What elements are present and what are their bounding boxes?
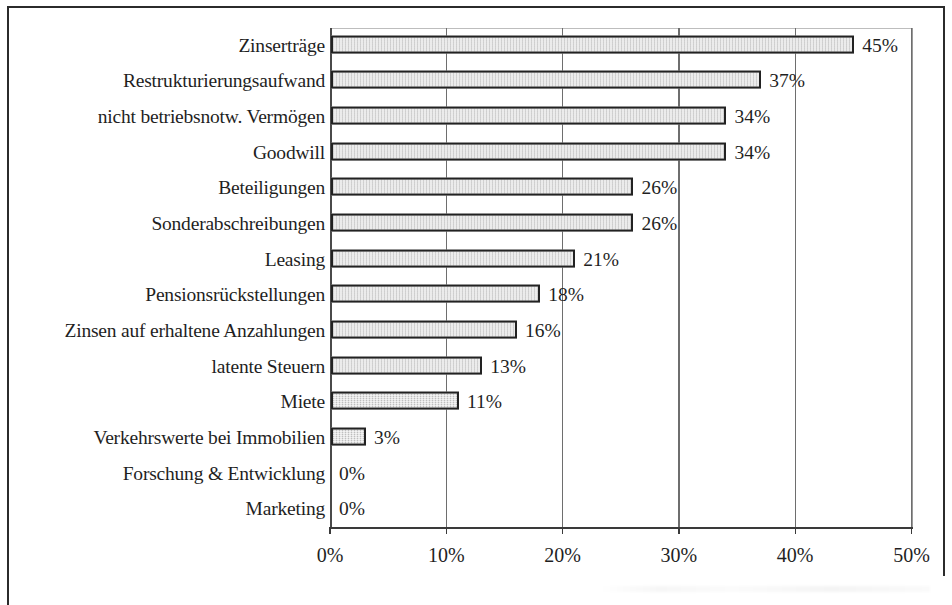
bar-row: Goodwill34% [0,135,952,171]
bar-row: Zinsen auf erhaltene Anzahlungen16% [0,313,952,349]
category-label: Restrukturierungsaufwand [123,72,325,92]
horizontal-bar-chart: Zinserträge45%Restrukturierungsaufwand37… [0,0,952,605]
bar-value-label: 18% [548,285,584,305]
bar-value-label: 26% [641,178,677,198]
bar-row: Miete11% [0,384,952,420]
category-label: Marketing [246,499,325,519]
bar-row: Forschung & Entwicklung0% [0,456,952,492]
category-label: Miete [281,392,325,412]
category-label: Zinserträge [238,36,325,56]
bar-row: Beteiligungen26% [0,171,952,207]
category-label: Sonderabschreibungen [151,214,325,234]
x-axis-tick-label: 10% [428,545,465,565]
tickmark-10pct [446,527,447,534]
bar-value-label: 34% [734,143,770,163]
tickmark-0pct [329,527,330,534]
bar-value-label: 45% [862,36,898,56]
tickmark-40pct [795,527,796,534]
x-axis-tick-label: 40% [777,545,814,565]
x-axis-tick-label: 20% [544,545,581,565]
bar [331,392,459,410]
tickmark-50pct [911,527,912,534]
bar [331,285,540,303]
category-label: Verkehrswerte bei Immobilien [93,428,325,448]
bar-row: Marketing0% [0,491,952,527]
bar-value-label: 16% [525,321,561,341]
tickmark-30pct [678,527,679,534]
bar-value-label: 3% [374,428,400,448]
bar [331,71,761,89]
bar-row: latente Steuern13% [0,349,952,385]
bar-row: Verkehrswerte bei Immobilien3% [0,420,952,456]
bar-value-label: 0% [339,499,365,519]
bar [331,142,726,160]
category-label: Pensionsrückstellungen [145,286,325,306]
bar [331,321,517,339]
category-label: nicht betriebsnotw. Vermögen [98,107,325,127]
category-label: Zinsen auf erhaltene Anzahlungen [64,321,325,341]
bar-value-label: 34% [734,107,770,127]
bar [331,178,633,196]
bar-row: Leasing21% [0,242,952,278]
bar-value-label: 13% [490,356,526,376]
category-label: Beteiligungen [218,179,325,199]
category-label: latente Steuern [212,357,325,377]
bar-value-label: 21% [583,250,619,269]
bar [331,35,854,53]
bar [331,427,366,445]
x-axis-tick-label: 0% [317,545,344,565]
category-label: Leasing [265,250,325,270]
bar-value-label: 26% [641,214,677,234]
scan-artifact [600,586,930,592]
bar-value-label: 0% [339,463,365,483]
bar-row: Sonderabschreibungen26% [0,206,952,242]
category-label: Forschung & Entwicklung [123,464,325,484]
bar-value-label: 37% [769,71,805,91]
x-axis-tick-label: 30% [661,545,698,565]
bar [331,356,482,374]
bar-row: Restrukturierungsaufwand37% [0,64,952,100]
bar [331,249,575,267]
bar [331,107,726,125]
tickmark-20pct [562,527,563,534]
bar [331,214,633,232]
bar-row: nicht betriebsnotw. Vermögen34% [0,99,952,135]
bar-value-label: 11% [467,392,502,412]
x-axis-tick-label: 50% [893,545,930,565]
bar-row: Pensionsrückstellungen18% [0,278,952,314]
bar-row: Zinserträge45% [0,28,952,64]
x-axis-line [330,527,913,529]
category-label: Goodwill [253,143,325,163]
